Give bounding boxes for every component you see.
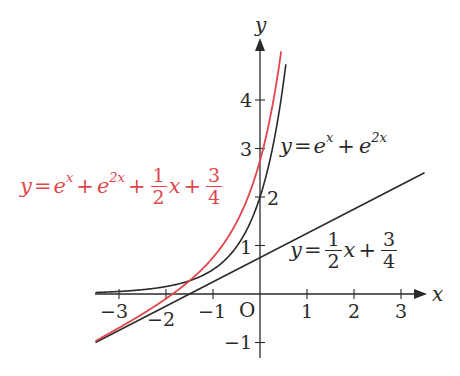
eq-fraction-three-quarters: 34 bbox=[381, 230, 397, 271]
eq-fraction-half: 12 bbox=[151, 166, 167, 207]
eq-exp: 2x bbox=[371, 131, 387, 144]
equation-label-red-curve: y = ex + e2x + 12 x + 34 bbox=[20, 166, 224, 207]
y-tick-label-1: 1 bbox=[240, 238, 252, 257]
eq-y: y bbox=[280, 136, 292, 157]
equation-label-line: y = 12 x + 34 bbox=[290, 230, 399, 271]
eq-e: e bbox=[313, 136, 325, 157]
eq-exp: x bbox=[66, 171, 73, 184]
eq-fraction-three-quarters: 34 bbox=[206, 166, 222, 207]
y-axis-arrow-icon bbox=[255, 38, 265, 51]
eq-fraction-half: 12 bbox=[325, 230, 341, 271]
x-tick-label-neg3: −3 bbox=[100, 302, 128, 321]
eq-e: e bbox=[53, 176, 65, 197]
equation-label-black-curve: y = ex + e2x bbox=[280, 136, 387, 157]
eq-y: y bbox=[20, 176, 32, 197]
x-tick-label-neg2: −2 bbox=[147, 310, 175, 329]
x-axis-label: x bbox=[432, 284, 443, 304]
eq-equals: = bbox=[294, 136, 312, 157]
eq-y: y bbox=[290, 240, 302, 261]
eq-plus: + bbox=[76, 176, 94, 197]
x-axis-arrow-icon bbox=[414, 289, 427, 299]
origin-label: O bbox=[239, 300, 255, 320]
y-tick-label-2: 2 bbox=[267, 189, 279, 208]
eq-plus: + bbox=[128, 176, 146, 197]
eq-equals: = bbox=[34, 176, 52, 197]
x-tick-label-3: 3 bbox=[395, 302, 407, 321]
y-axis-label: y bbox=[255, 15, 266, 35]
eq-e: e bbox=[97, 176, 109, 197]
y-tick-label-3: 3 bbox=[240, 140, 252, 159]
x-tick-label-1: 1 bbox=[301, 302, 313, 321]
eq-plus: + bbox=[183, 176, 201, 197]
eq-exp: x bbox=[326, 131, 333, 144]
x-tick-label-2: 2 bbox=[348, 302, 360, 321]
eq-e: e bbox=[359, 136, 371, 157]
y-tick-label-neg1: −1 bbox=[224, 333, 252, 352]
x-tick-label-neg1: −1 bbox=[198, 302, 226, 321]
eq-plus: + bbox=[337, 136, 355, 157]
eq-x: x bbox=[169, 176, 181, 197]
eq-plus: + bbox=[358, 240, 376, 261]
y-tick-label-4: 4 bbox=[240, 91, 252, 110]
eq-equals: = bbox=[304, 240, 322, 261]
eq-x: x bbox=[344, 240, 356, 261]
eq-exp: 2x bbox=[109, 171, 125, 184]
